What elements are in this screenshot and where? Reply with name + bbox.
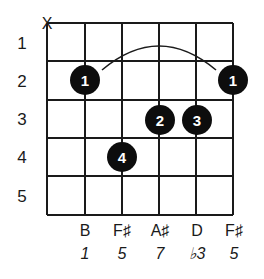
interval-label-string3: 7 bbox=[156, 245, 166, 262]
note-label-string5: B bbox=[80, 222, 91, 239]
note-labels: B F♯ A♯ D F♯ bbox=[80, 222, 243, 239]
note-label-string3: A♯ bbox=[151, 222, 170, 239]
note-label-string4: F♯ bbox=[113, 222, 131, 239]
fret-number-3: 3 bbox=[17, 110, 26, 129]
interval-labels: 1 5 7 ♭3 5 bbox=[81, 245, 239, 262]
interval-label-string1: 5 bbox=[230, 245, 239, 262]
finger-dot-string3-fret3: 2 bbox=[145, 105, 175, 135]
fret-number-2: 2 bbox=[17, 72, 26, 91]
fret-numbers: 1 2 3 4 5 bbox=[17, 34, 26, 206]
finger-dot-string5-fret2: 1 bbox=[70, 65, 100, 95]
finger-number: 1 bbox=[229, 72, 237, 89]
muted-string-x-icon: X bbox=[42, 15, 53, 32]
fret-number-5: 5 bbox=[17, 187, 26, 206]
finger-number: 4 bbox=[118, 149, 127, 166]
chord-diagram: 1 2 3 4 5 X 1 2 3 bbox=[0, 0, 264, 279]
finger-number: 1 bbox=[81, 72, 89, 89]
fret-number-1: 1 bbox=[17, 34, 26, 53]
finger-number: 2 bbox=[156, 112, 164, 129]
finger-number: 3 bbox=[193, 112, 201, 129]
finger-dot-string1-fret2: 1 bbox=[218, 65, 248, 95]
finger-dot-string2-fret3: 3 bbox=[182, 105, 212, 135]
interval-label-string4: 5 bbox=[118, 245, 127, 262]
fret-number-4: 4 bbox=[17, 148, 26, 167]
interval-label-string2: ♭3 bbox=[189, 245, 206, 262]
note-label-string1: F♯ bbox=[225, 222, 243, 239]
note-label-string2: D bbox=[191, 222, 203, 239]
interval-label-string5: 1 bbox=[81, 245, 90, 262]
finger-dot-string4-fret4: 4 bbox=[107, 142, 137, 172]
